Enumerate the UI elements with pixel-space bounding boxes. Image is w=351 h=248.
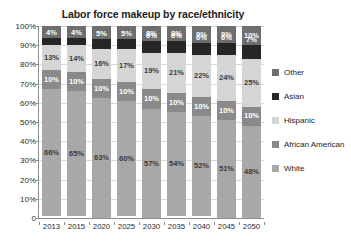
stacked-bar[interactable]: 8%6%21%10%54% [167, 26, 186, 218]
bar-segment-value-label: 57% [144, 160, 159, 168]
bar-segment[interactable]: 52% [192, 116, 211, 216]
x-axis-tick-mark [189, 222, 190, 225]
legend-item[interactable]: Asian [272, 84, 351, 108]
bar-segment[interactable]: 14% [67, 45, 86, 72]
bar-segment-value-label: 5% [96, 30, 107, 38]
bar-segment[interactable]: 10% [142, 89, 161, 108]
stacked-bar[interactable]: 6%4%14%10%65% [67, 26, 86, 218]
stacked-bar[interactable]: 9%6%24%10%51% [217, 26, 236, 218]
bar-segment[interactable]: 54% [167, 112, 186, 216]
bar-segment-value-label: 10% [69, 78, 84, 86]
bar-segment-value-label: 6% [221, 34, 232, 42]
x-axis-tick-mark [164, 222, 165, 225]
y-axis-tick-mark [35, 199, 39, 200]
x-axis-tick-mark [239, 222, 240, 225]
bar-segment-value-label: 14% [69, 55, 84, 63]
bar-segment-value-label: 4% [46, 29, 57, 37]
stacked-bar[interactable]: 8%6%19%10%57% [142, 26, 161, 218]
bar-segment-value-label: 51% [219, 165, 234, 173]
y-axis-tick-mark [35, 141, 39, 142]
x-axis-tick-label: 2013 [39, 222, 64, 231]
y-axis-tick-mark [35, 26, 39, 27]
bar-segment[interactable]: 6% [192, 43, 211, 55]
bar-group[interactable]: 7%5%16%10%63% [89, 26, 114, 218]
x-axis-tick-mark [89, 222, 90, 225]
stacked-bar[interactable]: 7%5%17%10%60% [117, 26, 136, 218]
x-axis-labels: 201320152020202520302035204020452050 [39, 222, 264, 231]
bar-segment[interactable]: 51% [217, 120, 236, 218]
bar-segment-value-label: 7% [246, 36, 257, 44]
x-axis-tick-label: 2035 [164, 222, 189, 231]
bar-segment[interactable]: 10% [42, 70, 61, 89]
bar-segment[interactable]: 17% [117, 49, 136, 82]
bar-segment-value-label: 10% [194, 103, 209, 111]
x-axis-tick-label: 2045 [214, 222, 239, 231]
bar-segment[interactable]: 10% [192, 97, 211, 116]
bar-segment-value-label: 7% [121, 17, 132, 25]
legend-item[interactable]: African American [272, 132, 351, 156]
stacked-bar[interactable]: 6%4%13%10%66% [42, 26, 61, 218]
bar-segment[interactable]: 10% [217, 101, 236, 120]
x-axis-tick-label: 2015 [64, 222, 89, 231]
bar-segment[interactable]: 5% [117, 39, 136, 49]
bar-segment[interactable]: 24% [217, 55, 236, 101]
bar-segment[interactable]: 4% [67, 38, 86, 46]
bar-segment[interactable]: 66% [42, 89, 61, 216]
bar-segment[interactable]: 10% [92, 79, 111, 98]
stacked-bar[interactable]: 10%7%25%10%48% [242, 26, 261, 218]
bar-segment-value-label: 6% [71, 17, 82, 25]
bar-segment[interactable]: 10% [242, 107, 261, 126]
bar-group[interactable]: 9%6%22%10%52% [189, 26, 214, 218]
y-axis-tick-mark [35, 84, 39, 85]
bar-segment[interactable]: 19% [142, 53, 161, 89]
bar-segment[interactable]: 6% [167, 41, 186, 53]
bar-segment-value-label: 63% [94, 154, 109, 162]
bar-segment-value-label: 5% [121, 30, 132, 38]
bar-segment-value-label: 60% [119, 155, 134, 163]
legend-item[interactable]: White [272, 156, 351, 180]
bar-segment[interactable]: 25% [242, 59, 261, 107]
legend-item[interactable]: Other [272, 60, 351, 84]
bar-segment[interactable]: 48% [242, 126, 261, 218]
bar-segment[interactable]: 7% [242, 45, 261, 58]
bar-segment-value-label: 22% [194, 72, 209, 80]
bar-segment[interactable]: 6% [142, 41, 161, 53]
bar-segment[interactable]: 10% [167, 93, 186, 112]
bar-segment[interactable]: 63% [92, 98, 111, 218]
bar-group[interactable]: 6%4%14%10%65% [64, 26, 89, 218]
bar-segment[interactable]: 60% [117, 101, 136, 216]
bar-group[interactable]: 9%6%24%10%51% [214, 26, 239, 218]
bar-segment-value-label: 25% [244, 79, 259, 87]
legend-color-swatch [272, 165, 279, 172]
bar-segment[interactable]: 10% [117, 82, 136, 101]
bar-group[interactable]: 10%7%25%10%48% [239, 26, 264, 218]
bar-segment-value-label: 6% [146, 32, 157, 40]
bar-group[interactable]: 8%6%21%10%54% [164, 26, 189, 218]
bar-segment-value-label: 4% [71, 29, 82, 37]
bar-group[interactable]: 8%6%19%10%57% [139, 26, 164, 218]
stacked-bar[interactable]: 7%5%16%10%63% [92, 26, 111, 218]
legend-item[interactable]: Hispanic [272, 108, 351, 132]
bar-segment[interactable]: 16% [92, 49, 111, 79]
bar-segment[interactable]: 65% [67, 91, 86, 216]
bar-segment-value-label: 10% [219, 107, 234, 115]
x-axis-tick-mark [114, 222, 115, 225]
bar-segment[interactable]: 57% [142, 109, 161, 218]
bar-segment-value-label: 10% [94, 85, 109, 93]
bar-segment[interactable]: 4% [42, 38, 61, 46]
bar-segment[interactable]: 6% [217, 43, 236, 55]
y-axis-tick-label: 40% [20, 137, 36, 146]
bar-segment-value-label: 54% [169, 160, 184, 168]
bar-group[interactable]: 6%4%13%10%66% [39, 26, 64, 218]
legend-item-label: Hispanic [284, 116, 315, 125]
bar-segment-value-label: 65% [69, 150, 84, 158]
bar-segment[interactable]: 13% [42, 45, 61, 70]
bar-segment[interactable]: 22% [192, 55, 211, 97]
x-axis-tick-label: 2050 [239, 222, 264, 231]
bar-segment[interactable]: 21% [167, 53, 186, 93]
y-axis-tick-label: 80% [20, 60, 36, 69]
bar-segment[interactable]: 10% [67, 72, 86, 91]
stacked-bar[interactable]: 9%6%22%10%52% [192, 26, 211, 218]
bar-group[interactable]: 7%5%17%10%60% [114, 26, 139, 218]
bar-segment[interactable]: 5% [92, 39, 111, 49]
